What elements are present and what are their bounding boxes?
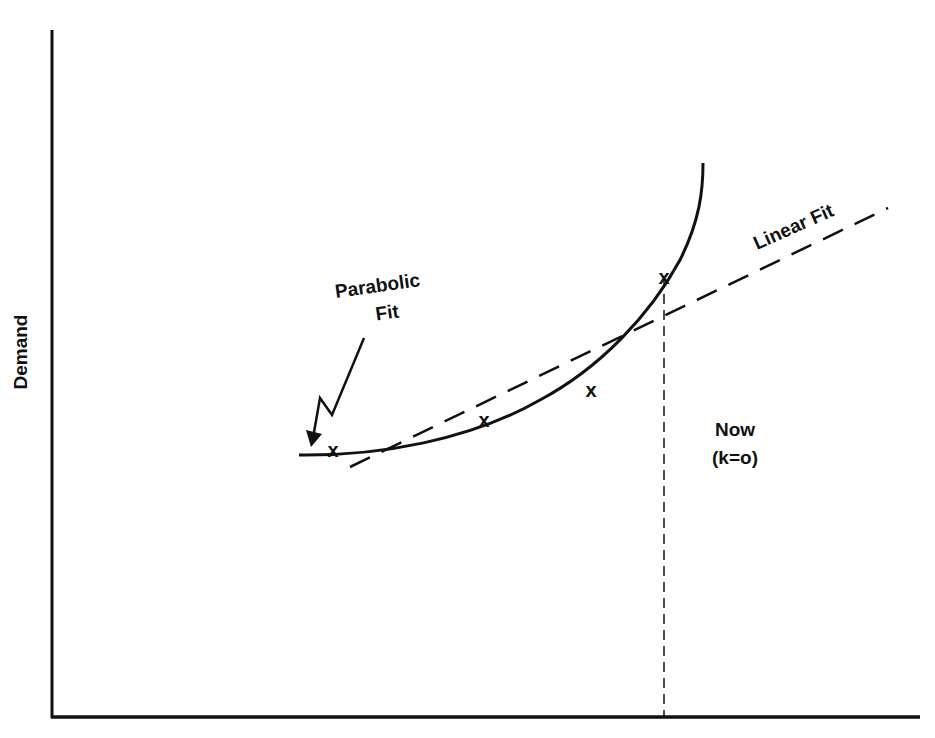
data-point-marker: x [585,379,596,401]
now-label-line2: (k=o) [712,447,758,468]
parabolic-fit-annotation: Parabolic Fit [334,269,426,329]
parabolic-label-line1: Parabolic [334,269,422,302]
parabolic-label-line2: Fit [374,300,401,324]
linear-fit-line [350,208,888,467]
now-label-line1: Now [715,419,755,440]
arrowhead-icon [306,430,322,447]
chart: Demand x x x x Parabolic Fit Linear Fit … [0,0,935,738]
y-axis-label: Demand [10,315,31,390]
parabolic-fit-curve [299,163,703,455]
data-point-marker: x [327,439,338,461]
data-point-marker: x [658,266,669,288]
data-point-marker: x [478,409,489,431]
linear-fit-label: Linear Fit [750,199,837,253]
zigzag-arrow-icon [313,338,364,438]
